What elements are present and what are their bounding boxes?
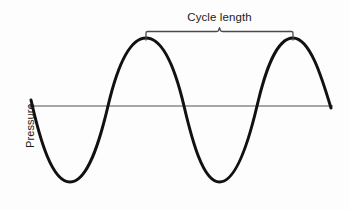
waveform-plot xyxy=(0,0,349,210)
cycle-length-label: Cycle length xyxy=(150,10,290,24)
bracket-span-line xyxy=(146,28,293,40)
cycle-length-bracket xyxy=(146,28,293,40)
pressure-waveform-curve xyxy=(31,38,331,182)
pressure-waveform-figure: Pressure Cycle length xyxy=(0,0,349,210)
